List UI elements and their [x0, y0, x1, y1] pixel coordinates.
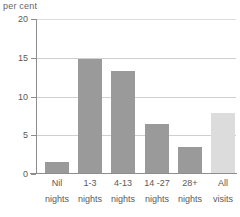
y-axis-tick-mark: [31, 19, 36, 20]
y-axis-tick-mark: [31, 97, 36, 98]
bar: [78, 59, 102, 174]
y-axis-tick-label: 15: [4, 54, 28, 63]
x-axis-line: [30, 173, 237, 174]
bar-chart: per cent 05101520 Nilnights1-3nights4-13…: [0, 0, 240, 217]
y-axis-tick-label: 20: [4, 15, 28, 24]
x-axis-label-line2: visits: [193, 194, 240, 205]
gridline: [36, 19, 236, 20]
y-axis-tick-mark: [31, 174, 36, 175]
y-axis-tick-mark: [31, 58, 36, 59]
gridline: [36, 135, 236, 136]
bar: [211, 113, 235, 174]
gridline: [36, 97, 236, 98]
plot-area: [36, 19, 236, 174]
x-axis-label-line1: All: [193, 178, 240, 189]
gridline: [36, 58, 236, 59]
y-axis-line: [36, 19, 37, 174]
y-axis-tick-mark: [31, 135, 36, 136]
bar: [145, 124, 169, 174]
bar: [178, 147, 202, 174]
bar: [111, 71, 135, 174]
y-axis-tick-label: 5: [4, 131, 28, 140]
y-axis-tick-label: 10: [4, 93, 28, 102]
x-axis-category-labels: Nilnights1-3nights4-13nights14 -27nights…: [0, 176, 240, 216]
